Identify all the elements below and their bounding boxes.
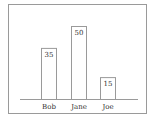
x-tick-label-jane: Jane	[70, 103, 87, 111]
bar-chart: 35Bob50Jane15Joe	[0, 0, 157, 121]
bar-jane	[72, 27, 87, 100]
x-tick-label-joe: Joe	[101, 103, 113, 111]
bars-group	[42, 27, 116, 100]
data-label-joe: 15	[104, 80, 113, 88]
x-tick-label-bob: Bob	[42, 103, 56, 111]
data-label-bob: 35	[45, 51, 54, 59]
data-label-jane: 50	[75, 29, 84, 37]
